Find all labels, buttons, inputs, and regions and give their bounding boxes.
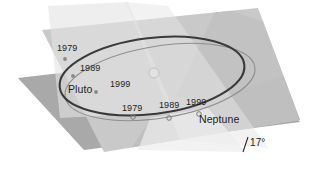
label-pluto-1989: 1989 xyxy=(80,64,100,73)
label-inclination-angle: 17° xyxy=(250,138,265,148)
label-neptune-1979: 1979 xyxy=(122,104,142,113)
diagram-canvas xyxy=(0,0,314,172)
label-pluto-name: Pluto xyxy=(68,84,92,95)
pluto-marker-1989 xyxy=(71,74,75,78)
sun-marker xyxy=(149,68,159,78)
label-neptune-name: Neptune xyxy=(199,114,239,125)
label-neptune-1989: 1989 xyxy=(159,101,179,110)
orbital-diagram-figure: 1979 1989 Pluto 1999 1979 1989 1999 Nept… xyxy=(0,0,314,172)
label-pluto-1979: 1979 xyxy=(57,44,77,53)
pluto-marker-1999 xyxy=(94,90,98,94)
label-neptune-1999: 1999 xyxy=(186,98,206,107)
pluto-marker-1979 xyxy=(63,57,67,61)
label-pluto-1999: 1999 xyxy=(110,80,130,89)
